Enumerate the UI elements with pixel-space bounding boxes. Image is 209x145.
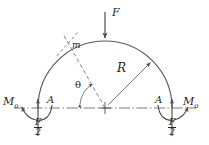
label-reaction-right: F 2	[168, 118, 176, 138]
reaction-right-numerator: F	[168, 118, 176, 127]
reaction-left-denominator: 2	[34, 128, 42, 137]
label-section-point: m	[72, 41, 81, 50]
arch-free-body-diagram: F m R θ A A Mo Mo F 2 F 2	[0, 0, 209, 145]
arch-curve	[38, 41, 172, 108]
label-reaction-left: F 2	[34, 118, 42, 138]
reaction-left-numerator: F	[34, 118, 42, 127]
label-moment-left-main: M	[3, 95, 14, 108]
label-moment-right-main: M	[183, 95, 194, 108]
radius-arrow	[108, 63, 151, 106]
label-moment-right: Mo	[183, 96, 198, 110]
reaction-right-denominator: 2	[168, 128, 176, 137]
label-angle-theta: θ	[75, 80, 81, 90]
label-radius: R	[117, 62, 126, 74]
label-moment-left-subscript: o	[14, 102, 18, 110]
diagram-canvas	[0, 0, 209, 145]
label-applied-load: F	[112, 7, 120, 18]
label-support-right: A	[155, 95, 162, 105]
label-support-left: A	[47, 95, 54, 105]
label-moment-left: Mo	[3, 96, 18, 110]
angle-arc-theta	[80, 84, 93, 104]
label-moment-right-subscript: o	[194, 102, 198, 110]
